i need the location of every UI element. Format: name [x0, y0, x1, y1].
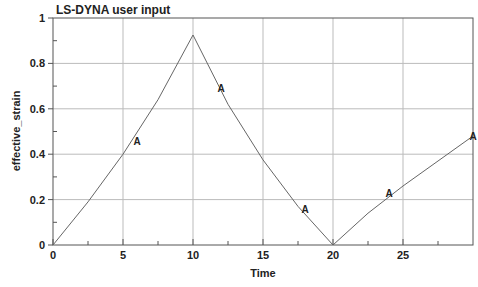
- axis-ticks: 051015202500.20.40.60.81: [30, 12, 438, 261]
- y-tick-label: 0.4: [30, 148, 46, 160]
- chart-title: LS-DYNA user input: [56, 3, 170, 17]
- y-tick-label: 0.6: [30, 103, 45, 115]
- marker-label: A: [469, 131, 476, 142]
- marker-label: A: [217, 83, 224, 94]
- x-tick-label: 25: [397, 249, 409, 261]
- marker-label: A: [301, 204, 308, 215]
- chart-container: 051015202500.20.40.60.81 AAAAA LS-DYNA u…: [0, 0, 478, 287]
- y-tick-label: 0.2: [30, 194, 45, 206]
- y-tick-label: 0.8: [30, 57, 45, 69]
- y-tick-label: 1: [39, 12, 45, 24]
- marker-label: A: [385, 188, 392, 199]
- data-markers: AAAAA: [133, 83, 476, 214]
- x-tick-label: 5: [120, 249, 126, 261]
- x-tick-label: 0: [50, 249, 56, 261]
- x-tick-label: 20: [327, 249, 339, 261]
- x-axis-label: Time: [250, 267, 275, 279]
- x-tick-label: 10: [187, 249, 199, 261]
- x-tick-label: 15: [257, 249, 269, 261]
- marker-label: A: [133, 136, 140, 147]
- line-chart: 051015202500.20.40.60.81 AAAAA LS-DYNA u…: [0, 0, 478, 287]
- y-axis-label: effective_strain: [10, 90, 22, 171]
- grid-lines: [53, 18, 473, 245]
- y-tick-label: 0: [39, 239, 45, 251]
